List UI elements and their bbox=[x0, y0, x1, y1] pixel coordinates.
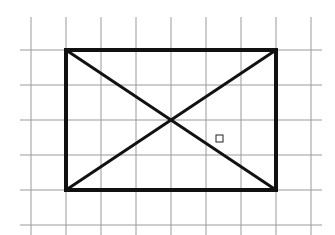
grid-diagram bbox=[0, 0, 335, 235]
small-square-marker bbox=[216, 135, 223, 142]
